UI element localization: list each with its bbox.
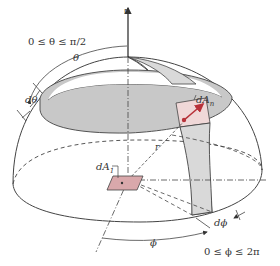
d-theta-label: dθ: [25, 94, 37, 105]
theta-range-label: 0 ≤ θ ≤ π/2: [28, 36, 86, 47]
phi-range-label: 0 ≤ ϕ ≤ 2π: [204, 246, 260, 257]
d-phi-label: dϕ: [214, 217, 227, 228]
hemisphere-diagram: n 0 ≤ θ ≤ π/2 θ dθ dAn dA1 r ϕ dϕ 0 ≤ ϕ …: [0, 0, 280, 266]
diagonal-axis: [96, 180, 128, 252]
dA1-label: dA1: [96, 161, 114, 175]
phi-label: ϕ: [150, 237, 157, 248]
r-label: r: [155, 142, 160, 152]
dA1-patch: [107, 176, 143, 190]
theta-label: θ: [73, 52, 79, 63]
normal-label: n: [124, 7, 129, 16]
